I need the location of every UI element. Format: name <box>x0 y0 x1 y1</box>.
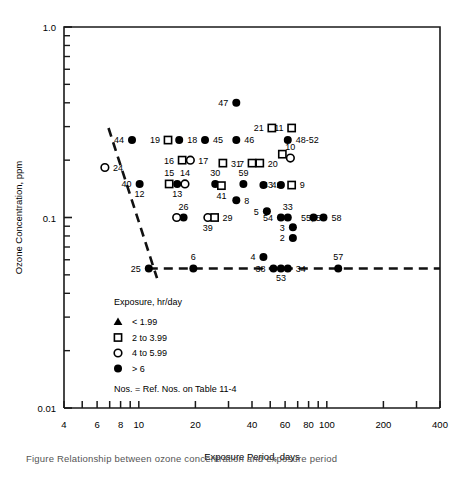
y-axis-title: Ozone Concentration, ppm <box>13 161 24 275</box>
legend-entry-label: < 1.99 <box>132 317 157 327</box>
data-point-label: 9 <box>300 180 305 190</box>
data-point-open-circle[interactable] <box>287 154 295 162</box>
data-point-filled-circle[interactable] <box>289 223 297 231</box>
legend-marker-open-circle <box>114 349 122 357</box>
data-point-label: 25 <box>131 264 141 274</box>
data-point-label: 15 <box>164 168 174 178</box>
data-point-filled-circle[interactable] <box>277 264 285 272</box>
legend-marker-filled-circle <box>114 365 122 373</box>
data-point-filled-circle[interactable] <box>259 253 267 261</box>
data-point-open-circle[interactable] <box>173 214 181 222</box>
data-point-label: 38 <box>255 264 265 274</box>
ozone-exposure-scatter-plot: 46810204060801002004000.010.11.0Exposure… <box>0 0 468 477</box>
data-point-filled-circle[interactable] <box>289 234 297 242</box>
y-tick-label: 0.01 <box>38 403 57 414</box>
sloped-threshold-line <box>109 128 158 278</box>
y-tick-label: 0.1 <box>43 213 56 224</box>
data-point-label: 17 <box>198 156 208 166</box>
data-point-filled-circle[interactable] <box>128 136 136 144</box>
data-point-square[interactable] <box>288 124 295 131</box>
y-tick-label: 1.0 <box>43 22 56 33</box>
data-point-label: 46 <box>244 135 254 145</box>
data-point-square[interactable] <box>164 136 171 143</box>
data-point-filled-circle[interactable] <box>189 264 197 272</box>
data-point-label: 29 <box>223 213 233 223</box>
data-point-square[interactable] <box>256 160 263 167</box>
x-tick-label: 4 <box>61 419 66 430</box>
data-point-label: 59 <box>238 168 248 178</box>
data-point-filled-circle[interactable] <box>232 196 240 204</box>
data-point-label: 48-52 <box>296 135 319 145</box>
data-point-label: 57 <box>333 252 343 262</box>
data-point-label: 58 <box>331 213 341 223</box>
data-point-square[interactable] <box>218 182 225 189</box>
data-point-label: 53 <box>276 273 286 283</box>
data-point-open-circle[interactable] <box>181 180 189 188</box>
data-point-open-circle[interactable] <box>187 156 195 164</box>
data-point-square[interactable] <box>248 160 255 167</box>
data-point-filled-circle[interactable] <box>277 181 285 189</box>
data-point-label: 40 <box>122 179 132 189</box>
data-point-square[interactable] <box>219 160 226 167</box>
data-point-filled-circle[interactable] <box>310 214 318 222</box>
data-point-label: 2 <box>280 233 285 243</box>
x-tick-label: 40 <box>247 419 258 430</box>
data-point-label: 47 <box>218 98 228 108</box>
data-point-filled-circle[interactable] <box>239 180 247 188</box>
data-point-label: 21 <box>254 123 264 133</box>
data-point-label: 39 <box>203 223 213 233</box>
legend-entry-label: > 6 <box>132 364 145 374</box>
data-point-square[interactable] <box>166 180 173 187</box>
data-point-filled-circle[interactable] <box>277 214 285 222</box>
data-point-filled-circle[interactable] <box>284 214 292 222</box>
data-point-filled-circle[interactable] <box>175 136 183 144</box>
data-point-filled-circle[interactable] <box>319 214 327 222</box>
data-point-square[interactable] <box>211 214 218 221</box>
data-point-label: 18 <box>187 135 197 145</box>
data-point-filled-circle[interactable] <box>232 136 240 144</box>
legend-marker-square <box>114 334 121 341</box>
x-tick-label: 10 <box>134 419 145 430</box>
data-point-label: 4 <box>250 252 255 262</box>
data-point-filled-circle[interactable] <box>136 180 144 188</box>
x-tick-label: 20 <box>190 419 201 430</box>
data-point-square[interactable] <box>279 151 286 158</box>
data-point-label: 16 <box>164 156 174 166</box>
data-point-label: 30 <box>210 168 220 178</box>
legend-marker-triangle <box>114 317 123 325</box>
x-tick-label: 100 <box>319 419 335 430</box>
x-tick-label: 400 <box>432 419 448 430</box>
data-point-label: 26 <box>179 202 189 212</box>
legend-entry-label: 4 to 5.99 <box>132 348 167 358</box>
data-point-filled-circle[interactable] <box>334 264 342 272</box>
data-point-filled-circle[interactable] <box>173 180 181 188</box>
data-point-label: 5 <box>254 207 259 217</box>
data-point-label: 10 <box>285 142 295 152</box>
data-point-filled-circle[interactable] <box>145 264 153 272</box>
data-point-label: 45 <box>213 135 223 145</box>
data-point-square[interactable] <box>179 157 186 164</box>
data-point-label: 20 <box>268 159 278 169</box>
data-point-filled-circle[interactable] <box>232 99 240 107</box>
data-point-label: 43 <box>263 180 273 190</box>
legend-note: Nos. = Ref. Nos. on Table 11-4 <box>114 384 236 394</box>
data-point-label: 14 <box>180 168 190 178</box>
data-point-open-circle[interactable] <box>101 164 109 172</box>
data-point-label: 3 <box>280 223 285 233</box>
data-point-filled-circle[interactable] <box>201 136 209 144</box>
data-point-label: 19 <box>150 135 160 145</box>
data-point-label: 11 <box>274 123 283 133</box>
data-point-label: 33 <box>283 202 293 212</box>
data-point-filled-circle[interactable] <box>269 264 277 272</box>
x-tick-label: 6 <box>94 419 99 430</box>
figure-caption: Figure Relationship between ozone concen… <box>26 452 456 465</box>
data-point-label: 13 <box>172 189 182 199</box>
data-point-filled-circle[interactable] <box>284 264 292 272</box>
data-point-label: 54 <box>263 213 273 223</box>
legend-entry-label: 2 to 3.99 <box>132 333 167 343</box>
data-point-label: 12 <box>135 189 145 199</box>
data-point-label: 44 <box>114 135 124 145</box>
x-tick-label: 8 <box>118 419 123 430</box>
figure-container: 46810204060801002004000.010.11.0Exposure… <box>0 0 468 477</box>
data-point-square[interactable] <box>288 181 295 188</box>
